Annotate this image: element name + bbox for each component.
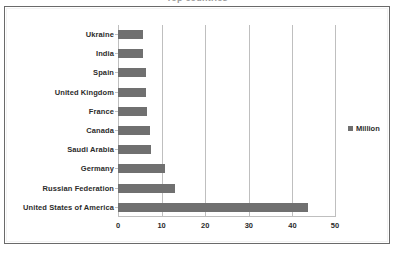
category-label-germany: Germany [81, 164, 114, 173]
bar-row-saudi-arabia[interactable]: Saudi Arabia [118, 140, 336, 159]
bar-row-spain[interactable]: Spain [118, 63, 336, 82]
bar-rows: Ukraine India Spain United Kingdom [118, 25, 336, 217]
bar-germany[interactable] [118, 164, 165, 173]
legend-label-million: Million [356, 124, 380, 133]
category-label-united-states-of-america: United States of America [23, 203, 114, 212]
x-tick-label-0: 0 [116, 221, 120, 230]
category-label-spain: Spain [93, 68, 114, 77]
bar-row-canada[interactable]: Canada [118, 121, 336, 140]
x-tick-label-10: 10 [157, 221, 165, 230]
bar-row-united-states-of-america[interactable]: United States of America [118, 198, 336, 217]
category-label-united-kingdom: United Kingdom [55, 88, 114, 97]
x-axis-tick-labels: 0 10 20 30 40 50 [118, 221, 336, 235]
bar-row-france[interactable]: France [118, 102, 336, 121]
bar-russian-federation[interactable] [118, 184, 175, 193]
category-label-ukraine: Ukraine [86, 30, 114, 39]
category-label-saudi-arabia: Saudi Arabia [67, 145, 114, 154]
x-tick-label-50: 50 [331, 221, 339, 230]
plot-area: Ukraine India Spain United Kingdom [118, 25, 336, 217]
x-tick-label-30: 30 [245, 221, 253, 230]
category-label-russian-federation: Russian Federation [43, 184, 114, 193]
chart-frame: Ukraine India Spain United Kingdom [4, 6, 390, 244]
bar-united-states-of-america[interactable] [118, 203, 308, 212]
bar-row-germany[interactable]: Germany [118, 159, 336, 178]
bar-india[interactable] [118, 49, 143, 58]
category-label-france: France [89, 107, 114, 116]
bar-united-kingdom[interactable] [118, 88, 146, 97]
bar-saudi-arabia[interactable] [118, 145, 151, 154]
bar-france[interactable] [118, 107, 147, 116]
chart-screenshot: Top countries Ukraine India [0, 0, 394, 253]
bar-ukraine[interactable] [118, 30, 143, 39]
x-tick-label-40: 40 [288, 221, 296, 230]
bar-row-india[interactable]: India [118, 44, 336, 63]
bar-canada[interactable] [118, 126, 150, 135]
bar-row-united-kingdom[interactable]: United Kingdom [118, 83, 336, 102]
legend-swatch-icon [348, 126, 353, 131]
clipped-title-text: Top countries [0, 0, 394, 3]
bar-spain[interactable] [118, 68, 146, 77]
category-label-india: India [96, 49, 114, 58]
chart-legend[interactable]: Million [348, 124, 380, 133]
bar-row-russian-federation[interactable]: Russian Federation [118, 179, 336, 198]
category-label-canada: Canada [86, 126, 114, 135]
x-tick-label-20: 20 [201, 221, 209, 230]
bar-row-ukraine[interactable]: Ukraine [118, 25, 336, 44]
